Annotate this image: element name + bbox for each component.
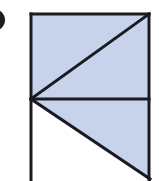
geometry-figure <box>0 0 159 181</box>
figure-container: Rectangle divided by a horizontal segmen… <box>0 0 159 181</box>
